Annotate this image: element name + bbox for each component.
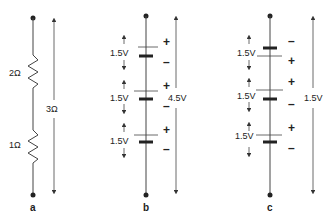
diagram-b-aiding-cells: + – 1.5V + – 1.5V + – 1.5V 4.5V [110, 14, 187, 214]
total-resistance-label: 3Ω [46, 104, 58, 114]
sign-b-1-bottom: – [163, 55, 170, 69]
sign-c-2-top: + [288, 75, 295, 89]
cell-voltage-b-3: 1.5V [110, 136, 129, 146]
cell-b-1: + – 1.5V [110, 35, 170, 69]
cell-b-2: + – 1.5V [110, 79, 170, 113]
resistor-1ohm [28, 130, 38, 163]
sign-c-3-bottom: – [288, 141, 295, 155]
cell-voltage-c-3: 1.5V [235, 131, 254, 141]
caption-b: b [143, 202, 149, 213]
total-voltage-c: 1.5V [304, 93, 323, 103]
sign-b-1-top: + [163, 35, 170, 49]
terminal-bottom-a [31, 193, 36, 198]
cell-voltage-b-1: 1.5V [110, 48, 129, 58]
cell-voltage-c-1: 1.5V [237, 48, 256, 58]
sign-c-2-bottom: – [288, 97, 295, 111]
sign-b-3-top: + [163, 123, 170, 137]
caption-a: a [30, 202, 36, 213]
cell-voltage-b-2: 1.5V [110, 93, 129, 103]
terminal-bottom-b [144, 193, 149, 198]
diagram-c-opposing-cell: – + 1.5V + – 1.5V + – 1.5V 1.5V [235, 14, 323, 214]
cell-b-3: + – 1.5V [110, 123, 170, 156]
terminal-bottom-c [268, 193, 273, 198]
cell-c-2: + – 1.5V [237, 75, 295, 111]
sign-c-1-top: – [288, 34, 295, 48]
resistor-label-2ohm: 2Ω [9, 68, 21, 78]
caption-c: c [267, 202, 273, 213]
diagram-a-resistors: 2Ω 1Ω 3Ω a [9, 16, 58, 214]
sign-b-2-top: + [163, 79, 170, 93]
resistor-2ohm [28, 55, 38, 88]
sign-c-1-bottom: + [288, 54, 295, 68]
total-voltage-b: 4.5V [168, 93, 187, 103]
cell-c-3: + – 1.5V [235, 121, 295, 155]
resistor-label-1ohm: 1Ω [9, 140, 21, 150]
cell-voltage-c-2: 1.5V [237, 91, 256, 101]
series-circuit-figure: 2Ω 1Ω 3Ω a + – 1.5V + – 1.5V [0, 0, 331, 219]
sign-c-3-top: + [288, 121, 295, 135]
cell-c-1: – + 1.5V [237, 34, 295, 68]
sign-b-3-bottom: – [163, 142, 170, 156]
